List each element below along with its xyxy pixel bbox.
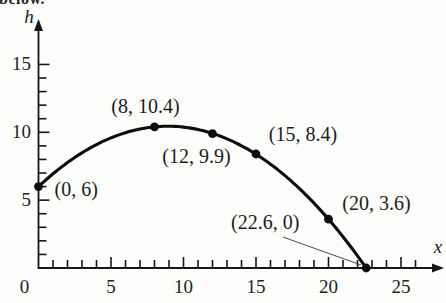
data-point [252,150,261,159]
data-point [34,182,43,191]
x-tick-label: 5 [106,276,116,297]
plot-svg: 051015202551015hx(0, 6)(8, 10.4)(12, 9.9… [0,0,446,303]
x-tick-label: 0 [20,276,30,297]
data-point [324,215,333,224]
y-tick-label: 15 [12,53,31,74]
x-axis-arrowhead [432,264,444,273]
data-point [208,129,217,138]
annotation-leader-line [283,237,361,265]
y-axis-label: h [24,6,34,27]
data-point-label: (12, 9.9) [162,145,230,168]
x-tick-label: 10 [174,276,193,297]
figure: below. 051015202551015hx(0, 6)(8, 10.4)(… [0,0,446,303]
x-axis-label: x [433,236,443,257]
data-point-label: (20, 3.6) [342,192,410,215]
y-tick-label: 10 [12,121,31,142]
y-tick-label: 5 [22,189,32,210]
data-point [362,264,371,273]
y-axis-arrowhead [34,19,43,31]
x-tick-label: 20 [319,276,338,297]
data-point [150,122,159,131]
data-point-label: (22.6, 0) [231,211,299,234]
data-point-label: (15, 8.4) [269,123,337,146]
x-tick-label: 25 [392,276,411,297]
data-point-label: (8, 10.4) [111,95,179,118]
x-tick-label: 15 [247,276,266,297]
data-point-label: (0, 6) [55,178,98,201]
